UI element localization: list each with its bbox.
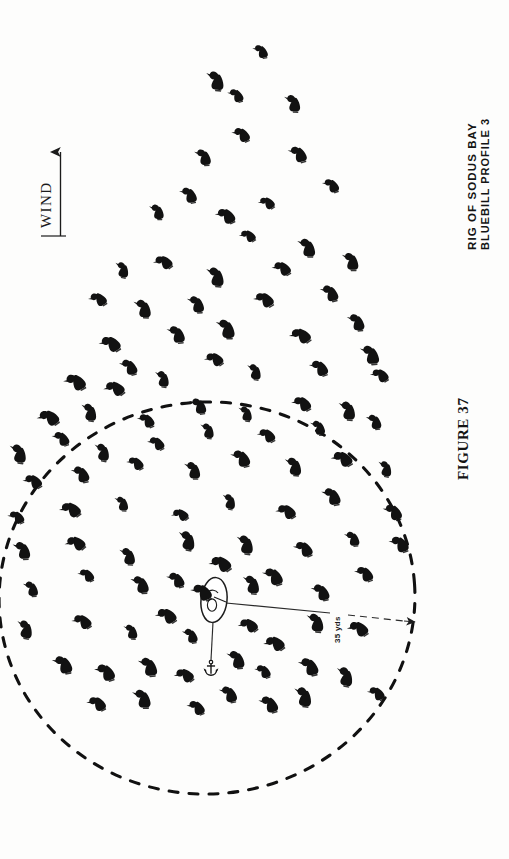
decoy-marker: [341, 253, 359, 272]
decoy-marker: [92, 443, 111, 463]
decoy-marker: [220, 493, 237, 511]
decoy-marker: [154, 604, 179, 630]
decoy-marker: [63, 532, 87, 557]
decoy-marker: [125, 454, 145, 474]
decoy-marker: [182, 628, 198, 645]
decoy-marker: [23, 581, 38, 597]
decoy-marker: [77, 566, 96, 585]
decoy-marker: [194, 149, 211, 167]
decoy-marker: [236, 615, 260, 639]
decoy-marker: [238, 227, 258, 247]
decoy-marker: [297, 656, 319, 679]
decoy-marker: [369, 365, 391, 387]
decoy-marker: [261, 566, 284, 590]
decoy-marker: [308, 358, 329, 380]
decoy-marker: [353, 564, 374, 586]
decoy-marker: [173, 665, 196, 689]
decoy-marker: [51, 429, 71, 449]
decoy-marker: [189, 397, 207, 416]
decoy-marker: [7, 444, 27, 465]
decoy-marker: [262, 632, 287, 657]
decoy-marker: [97, 332, 123, 358]
decoy-rig-diagram: [0, 0, 509, 859]
decoy-marker: [62, 370, 88, 397]
decoy-marker: [347, 313, 365, 332]
decoy-marker: [283, 95, 300, 113]
decoy-marker: [176, 530, 197, 552]
decoy-marker: [230, 448, 252, 471]
wind-direction-label: WIND: [38, 182, 55, 228]
decoy-marker: [199, 423, 215, 440]
decoy-marker: [58, 498, 83, 524]
decoy-marker: [321, 487, 342, 509]
decoy-marker: [203, 349, 226, 372]
decoy-marker: [114, 496, 129, 511]
decoy-marker: [366, 414, 382, 431]
decoy-marker: [297, 239, 315, 258]
decoy-marker: [51, 654, 73, 677]
figure-title: RIG OF SODUS BAY BLUEBILL PROFILE 3: [466, 118, 492, 250]
anchor-rode: [211, 622, 213, 660]
decoy-marker: [292, 686, 313, 708]
decoy-marker: [102, 377, 127, 402]
decoy-marker: [333, 666, 355, 688]
decoy-marker: [70, 611, 93, 635]
decoy-marker: [310, 583, 330, 604]
decoy-marker: [227, 87, 245, 106]
decoy-marker: [310, 420, 325, 436]
decoy-marker: [344, 531, 360, 548]
decoy-marker: [170, 505, 191, 526]
decoy-marker: [207, 552, 233, 579]
decoy-marker: [79, 403, 98, 423]
decoy-marker: [87, 289, 109, 311]
figure-title-line-1: RIG OF SODUS BAY: [466, 118, 479, 250]
decoy-marker: [321, 177, 340, 197]
figure-page: RIG OF SODUS BAY BLUEBILL PROFILE 3 FIGU…: [0, 0, 509, 859]
decoy-marker: [218, 685, 237, 705]
anchor-icon: [204, 660, 219, 675]
decoy-marker: [149, 205, 164, 221]
decoy-marker: [118, 358, 138, 379]
decoy-marker: [256, 426, 277, 447]
figure-title-line-2: BLUEBILL PROFILE 3: [479, 118, 492, 250]
decoy-marker: [184, 462, 201, 480]
decoy-marker: [226, 650, 244, 670]
decoy-marker: [271, 258, 293, 281]
decoy-marker: [290, 393, 313, 416]
decoy-marker: [118, 548, 135, 566]
decoy-marker: [319, 284, 339, 305]
decoy-marker: [70, 465, 90, 486]
decoy-marker: [287, 144, 308, 166]
decoy-marker: [234, 534, 254, 555]
figure-number-label: FIGURE 37: [455, 398, 472, 481]
decoy-marker: [166, 325, 185, 345]
decoy-marker: [376, 460, 393, 478]
scale-distance-label: 35 yds: [333, 616, 342, 643]
decoy-marker: [305, 613, 324, 633]
decoy-marker: [274, 501, 298, 525]
decoy-marker: [292, 539, 314, 562]
decoy-marker: [152, 252, 175, 275]
decoy-marker: [132, 689, 151, 709]
decoy-marker: [85, 693, 107, 716]
decoy-marker: [254, 663, 272, 682]
decoy-marker: [205, 71, 225, 92]
decoy-marker: [166, 570, 186, 591]
decoy-marker: [346, 617, 371, 642]
decoy-marker: [136, 411, 156, 431]
decoy-marker: [14, 619, 35, 640]
decoy-marker: [329, 447, 354, 473]
decoy-marker: [138, 657, 158, 678]
decoy-marker: [252, 289, 276, 313]
decoy-marker: [186, 698, 206, 719]
decoy-marker: [252, 43, 269, 61]
decoy-marker: [130, 575, 149, 595]
decoy-marker: [360, 345, 380, 366]
decoy-marker: [237, 406, 253, 422]
decoy-marker: [337, 401, 357, 422]
decoy-marker: [257, 194, 277, 214]
decoy-marker: [12, 542, 30, 561]
decoy-marker: [133, 300, 151, 319]
decoy-marker: [214, 205, 237, 229]
decoy-marker: [241, 575, 260, 595]
